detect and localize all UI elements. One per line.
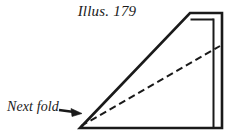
fold-diagram bbox=[0, 0, 235, 136]
next-fold-arrow bbox=[59, 109, 82, 117]
illustration-figure: Illus. 179 Next fold bbox=[0, 0, 235, 136]
next-fold-label: Next fold bbox=[7, 99, 59, 115]
paper-outline-shape bbox=[80, 13, 222, 128]
